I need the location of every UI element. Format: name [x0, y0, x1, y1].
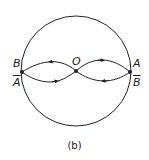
label-O: O: [72, 56, 81, 67]
label-A-bar: A: [13, 77, 21, 88]
curve-lower-left: [22, 71, 76, 82]
point-B: [20, 70, 24, 74]
label-B: B: [13, 58, 21, 69]
curve-lower-right: [76, 71, 130, 81]
figure-caption: (b): [0, 140, 149, 151]
diagram-canvas: [0, 0, 149, 160]
curve-upper-left: [22, 62, 76, 72]
diagram: B A O A B (b): [0, 0, 149, 160]
label-A: A: [133, 58, 141, 69]
point-O: [74, 69, 78, 73]
point-A: [128, 70, 132, 74]
label-B-bar: B: [133, 77, 141, 88]
curve-upper-right: [76, 60, 130, 72]
